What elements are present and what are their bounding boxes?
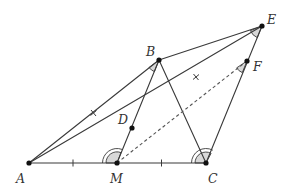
point-E xyxy=(259,23,264,28)
point-D xyxy=(129,125,134,130)
label-A: A xyxy=(15,171,25,186)
geometry-diagram: A M C B D E F xyxy=(0,0,294,189)
segment-CE xyxy=(206,26,262,163)
point-A xyxy=(26,160,31,165)
x-tick-DE xyxy=(193,74,199,80)
label-E: E xyxy=(266,12,276,27)
label-M: M xyxy=(109,171,124,186)
label-C: C xyxy=(208,171,218,186)
label-B: B xyxy=(145,44,155,59)
point-B xyxy=(156,57,161,62)
point-M xyxy=(114,160,119,165)
segment-BE xyxy=(159,26,262,60)
segment-MF-dashed xyxy=(117,61,247,163)
point-C xyxy=(203,160,208,165)
label-F: F xyxy=(252,59,263,74)
point-F xyxy=(244,58,249,63)
segment-AB xyxy=(29,60,159,163)
label-D: D xyxy=(117,112,128,127)
